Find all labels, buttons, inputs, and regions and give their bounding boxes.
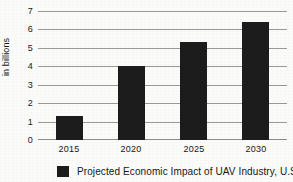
bar-2020	[118, 66, 145, 140]
y-axis-tick-label: 1	[28, 118, 33, 127]
bar-2025	[180, 42, 207, 140]
bars-layer	[38, 11, 287, 140]
x-axis-tick-label-2020: 2020	[121, 144, 142, 154]
y-axis-tick-label: 5	[28, 44, 33, 53]
y-axis-tick-label: 6	[28, 25, 33, 34]
y-axis-tick-label: 2	[28, 99, 33, 108]
x-axis-tick-label-2030: 2030	[246, 144, 267, 154]
y-axis-tick-label: 0	[28, 136, 33, 145]
legend-color-swatch	[57, 166, 69, 177]
chart-legend: Projected Economic Impact of UAV Industr…	[57, 166, 293, 177]
bar-2030	[242, 22, 269, 140]
bar-chart-figure: 01234567 in billions 2015202020252030 Pr…	[0, 0, 293, 182]
y-axis-tick-label: 3	[28, 81, 33, 90]
y-axis-tick-label: 4	[28, 62, 33, 71]
x-axis-labels: 2015202020252030	[38, 144, 287, 158]
x-axis-tick-label-2025: 2025	[184, 144, 205, 154]
y-axis-tick-label: 7	[28, 7, 33, 16]
legend-label: Projected Economic Impact of UAV Industr…	[77, 166, 293, 177]
y-axis-title: in billions	[2, 38, 11, 76]
bar-2015	[56, 116, 83, 140]
x-axis-tick-label-2015: 2015	[59, 144, 80, 154]
